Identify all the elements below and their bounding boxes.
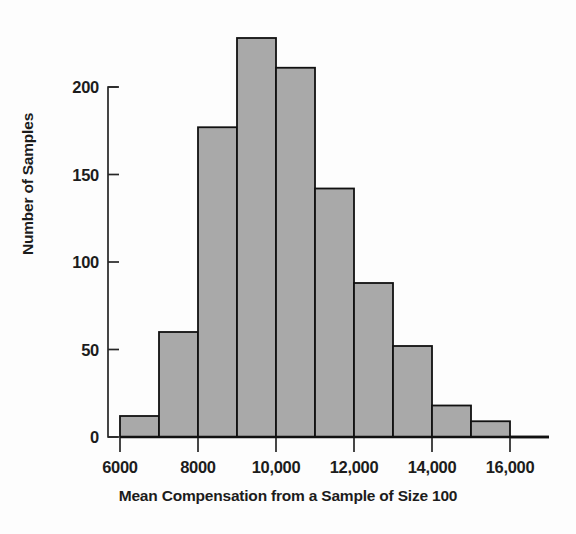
histogram-bar: [393, 346, 432, 437]
y-tick-labels: 050100150200: [72, 78, 99, 446]
histogram-bar: [276, 68, 315, 437]
x-tick-label: 8000: [180, 458, 216, 476]
histogram-bar: [237, 38, 276, 437]
y-tick-label: 100: [72, 253, 99, 271]
x-tick-label: 6000: [102, 458, 138, 476]
x-tick-label: 10,000: [252, 458, 301, 476]
y-tick-label: 50: [81, 341, 99, 359]
histogram-bar: [354, 283, 393, 437]
x-axis-title: Mean Compensation from a Sample of Size …: [0, 487, 576, 505]
y-tick-label: 200: [72, 78, 99, 96]
x-tick-labels: 6000800010,00012,00014,00016,000: [102, 458, 534, 476]
histogram-bar: [432, 406, 471, 438]
histogram-bar: [120, 416, 159, 437]
histogram-bar: [315, 189, 354, 438]
histogram-figure: Number of Samples 050100150200 600080001…: [0, 0, 576, 534]
x-tick-label: 12,000: [330, 458, 379, 476]
x-tick-label: 16,000: [486, 458, 535, 476]
bars-group: [120, 38, 549, 437]
y-tick-label: 0: [90, 428, 99, 446]
plot-area: 050100150200 6000800010,00012,00014,0001…: [0, 0, 576, 534]
histogram-bar: [159, 332, 198, 437]
histogram-bar: [198, 127, 237, 437]
y-tick-label: 150: [72, 166, 99, 184]
x-tick-label: 14,000: [408, 458, 457, 476]
histogram-bar: [471, 421, 510, 437]
